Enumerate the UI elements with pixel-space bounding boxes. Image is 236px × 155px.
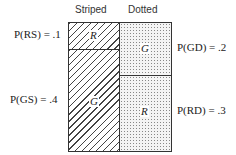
prob-red-striped: P(RS) = .1 [14,28,61,40]
prob-green-striped: P(GS) = .4 [10,93,57,105]
label-striped-red: R [89,30,98,41]
prob-red-dotted: P(RD) = .3 [177,104,226,116]
column-header-striped: Striped [75,4,107,15]
prob-green-dotted: P(GD) = .2 [177,41,226,53]
column-header-dotted: Dotted [128,4,157,15]
label-dotted-red: R [140,106,149,117]
label-striped-green: G [89,96,99,107]
label-dotted-green: G [140,43,150,54]
